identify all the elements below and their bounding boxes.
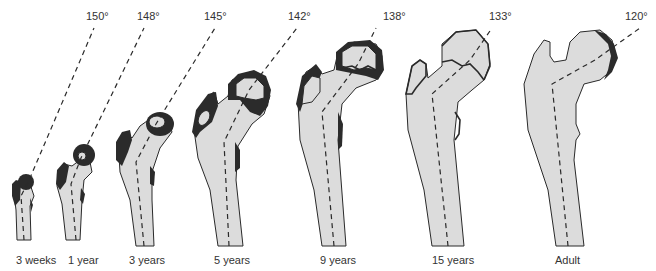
- age-label-5-years: 5 years: [214, 254, 251, 266]
- age-label-3-years: 3 years: [129, 254, 166, 266]
- cartilage-lesser-trochanter: [235, 142, 240, 172]
- femur-adult: [524, 28, 640, 246]
- femur-9-years: [296, 28, 384, 246]
- angle-label-9-years: 138°: [383, 10, 406, 22]
- femur-15-years: [406, 28, 492, 246]
- ossific-nucleus-head: [78, 152, 86, 160]
- age-label-adult: Adult: [555, 254, 580, 266]
- angle-label-5-years: 142°: [288, 10, 311, 22]
- femur-shaft: [524, 30, 616, 246]
- age-label-1-year: 1 year: [68, 254, 99, 266]
- age-label-15-years: 15 years: [432, 254, 475, 266]
- angle-label-3-years: 145°: [204, 10, 227, 22]
- femur-shaft: [406, 30, 490, 246]
- angle-label-adult: 120°: [625, 10, 648, 22]
- femur-development-diagram: 150° 148° 145° 142° 138° 133° 120° 3 wee…: [0, 0, 656, 271]
- angle-label-1-year: 148°: [137, 10, 160, 22]
- cartilage-head: [18, 174, 34, 190]
- cartilage-lesser-trochanter: [150, 166, 155, 186]
- age-label-3-weeks: 3 weeks: [16, 254, 57, 266]
- angle-label-15-years: 133°: [489, 10, 512, 22]
- age-label-9-years: 9 years: [320, 254, 357, 266]
- angle-label-3-weeks: 150°: [86, 10, 109, 22]
- femur-5-years: [192, 28, 297, 246]
